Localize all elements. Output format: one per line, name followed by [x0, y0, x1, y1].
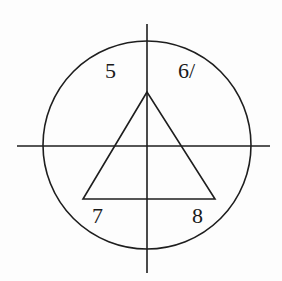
circle-axes-triangle-figure — [0, 0, 282, 281]
label-7: 7 — [92, 205, 103, 227]
label-5: 5 — [105, 60, 116, 82]
label-8: 8 — [192, 205, 203, 227]
label-6: 6/ — [178, 60, 195, 82]
diagram-canvas: 5 6/ 7 8 — [0, 0, 282, 281]
